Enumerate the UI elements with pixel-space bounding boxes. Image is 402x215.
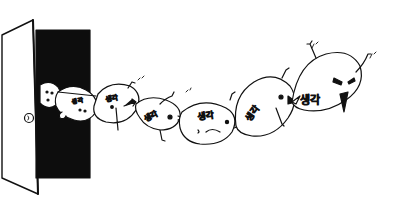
- svg-text:생각: 생각: [197, 109, 214, 122]
- creature-2: 생각: [55, 86, 97, 121]
- creature-5: 생각: [179, 92, 240, 144]
- open-door: [2, 20, 38, 194]
- creature-4: 생각: [136, 92, 184, 141]
- thought-creatures-illustration: 생각 생각 생각 생각 생각: [0, 0, 402, 215]
- creature-6: 생각: [235, 68, 296, 136]
- svg-text:생각: 생각: [300, 94, 320, 107]
- creature-3: 생각: [94, 82, 139, 130]
- creature-7: 생각: [292, 41, 371, 112]
